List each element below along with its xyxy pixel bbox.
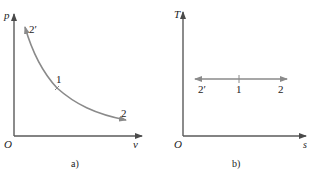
caption-a: a) [71, 158, 79, 170]
point-label-2prime-b: 2′ [198, 83, 206, 95]
point-label-2prime-a: 2′ [29, 23, 37, 35]
x-axis-label-a: v [133, 138, 138, 150]
x-axis-label-b: s [303, 139, 307, 150]
diagram-b-ts: T s O 2′ 1 2 b) [174, 8, 307, 170]
origin-label-a: O [4, 138, 12, 150]
point-label-1-b: 1 [236, 83, 242, 95]
point-label-1-a: 1 [56, 73, 62, 85]
isotherm-curve-to-2prime [25, 27, 57, 88]
origin-label-b: O [174, 138, 182, 150]
y-axis-label-a: p [3, 9, 10, 21]
figure: p v O 2′ 1 2 a) T s O 2′ 1 2 b) [0, 0, 312, 176]
point-label-2-b: 2 [278, 83, 284, 95]
diagram-a-pv: p v O 2′ 1 2 a) [3, 9, 142, 170]
point-label-2-a: 2 [121, 107, 127, 119]
isotherm-curve-to-2 [57, 88, 126, 120]
y-axis-label-b: T [174, 8, 181, 20]
caption-b: b) [232, 158, 240, 170]
